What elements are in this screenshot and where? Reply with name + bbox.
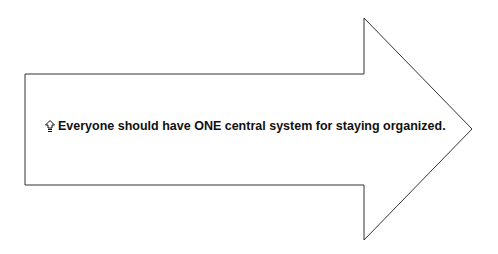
- up-arrow-outline-icon: [45, 120, 55, 133]
- arrow-text: Everyone should have ONE central system …: [45, 119, 446, 133]
- statement-text: Everyone should have ONE central system …: [58, 119, 446, 133]
